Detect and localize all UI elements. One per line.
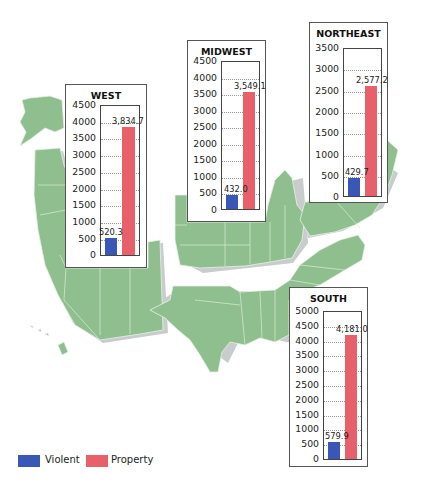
bar-property-west xyxy=(122,127,135,255)
y-tick: 3500 xyxy=(181,89,217,99)
legend-swatch-violent xyxy=(18,455,40,467)
y-tick: 3500 xyxy=(303,43,339,53)
y-tick: 2000 xyxy=(303,107,339,117)
chart-west: WEST 4500 4000 3500 3000 2500 2000 1500 … xyxy=(65,84,147,268)
y-tick: 4500 xyxy=(181,56,217,66)
y-tick: 3000 xyxy=(283,365,319,375)
plot-area-midwest: 432.0 3,549.1 xyxy=(221,61,260,210)
y-tick: 0 xyxy=(181,205,217,215)
map-alaska xyxy=(20,96,64,146)
y-tick: 3500 xyxy=(283,350,319,360)
y-tick: 0 xyxy=(60,250,96,260)
y-tick: 4000 xyxy=(283,336,319,346)
y-tick: 3500 xyxy=(60,133,96,143)
y-tick: 1000 xyxy=(60,217,96,227)
chart-title-northeast: NORTHEAST xyxy=(310,28,387,39)
y-tick: 1000 xyxy=(181,172,217,182)
chart-south: SOUTH 5000 4500 4000 3500 3000 2500 2000… xyxy=(289,287,368,467)
y-tick: 1500 xyxy=(60,200,96,210)
value-label-property-midwest: 3,549.1 xyxy=(234,82,266,91)
y-tick: 2000 xyxy=(283,395,319,405)
y-tick: 4000 xyxy=(60,117,96,127)
map-hawaii xyxy=(30,326,68,355)
y-tick: 2500 xyxy=(60,167,96,177)
value-label-property-south: 4,181.0 xyxy=(336,325,368,334)
y-tick: 500 xyxy=(303,171,339,181)
value-label-property-west: 3,834.7 xyxy=(112,117,144,126)
y-tick: 5000 xyxy=(283,306,319,316)
y-tick: 500 xyxy=(181,188,217,198)
bar-property-northeast xyxy=(365,86,377,196)
chart-title-south: SOUTH xyxy=(290,293,367,304)
bar-violent-northeast xyxy=(348,178,360,196)
legend-swatch-property xyxy=(86,455,108,467)
y-tick: 1000 xyxy=(303,150,339,160)
y-tick: 3000 xyxy=(303,64,339,74)
y-tick: 3000 xyxy=(60,150,96,160)
y-tick: 2000 xyxy=(60,184,96,194)
y-tick: 2500 xyxy=(303,86,339,96)
plot-area-west: 520.3 3,834.7 xyxy=(100,105,140,256)
y-tick: 1500 xyxy=(181,155,217,165)
y-tick: 4500 xyxy=(60,100,96,110)
y-tick: 4000 xyxy=(181,73,217,83)
y-tick: 1500 xyxy=(283,410,319,420)
value-label-violent-northeast: 429.7 xyxy=(345,168,369,177)
y-tick: 1500 xyxy=(303,128,339,138)
plot-area-south: 579.9 4,181.0 xyxy=(323,311,362,460)
legend-label-violent: Violent xyxy=(45,454,80,465)
y-tick: 2000 xyxy=(181,139,217,149)
bar-violent-south xyxy=(328,442,340,459)
chart-northeast: NORTHEAST 3500 3000 2500 2000 1500 1000 … xyxy=(309,22,388,203)
y-tick: 2500 xyxy=(283,380,319,390)
bar-violent-midwest xyxy=(226,195,238,210)
y-tick: 500 xyxy=(283,439,319,449)
y-tick: 0 xyxy=(283,454,319,464)
legend-label-property: Property xyxy=(111,454,153,465)
plot-area-northeast: 429.7 2,577.2 xyxy=(343,48,382,197)
y-tick: 3000 xyxy=(181,106,217,116)
y-tick: 0 xyxy=(303,192,339,202)
bar-violent-west xyxy=(105,238,117,256)
y-tick: 1000 xyxy=(283,424,319,434)
y-tick: 500 xyxy=(60,234,96,244)
y-tick: 4500 xyxy=(283,321,319,331)
value-label-violent-midwest: 432.0 xyxy=(224,185,248,194)
value-label-violent-west: 520.3 xyxy=(99,228,123,237)
value-label-violent-south: 579.9 xyxy=(325,432,349,441)
value-label-property-northeast: 2,577.2 xyxy=(356,76,388,85)
chart-midwest: MIDWEST 4500 4000 3500 3000 2500 2000 15… xyxy=(187,40,266,222)
y-tick: 2500 xyxy=(181,122,217,132)
